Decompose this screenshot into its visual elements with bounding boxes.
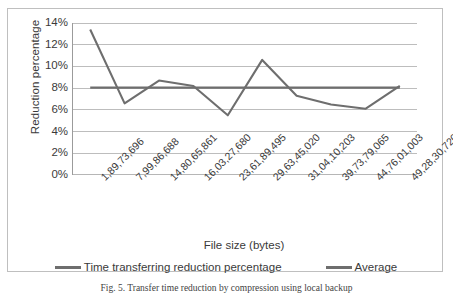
y-axis-tick-label: 4%	[32, 126, 68, 138]
x-axis-tick-label: 7,99,86,688	[134, 175, 142, 183]
chart-figure: Reduction percentage 0%2%4%6%8%10%12%14%…	[7, 8, 443, 272]
legend-label: Average	[355, 261, 398, 273]
series-line-reduction-percentage	[90, 30, 400, 116]
legend-line-swatch-icon	[55, 266, 81, 269]
legend-entry[interactable]: Average	[326, 261, 398, 273]
x-axis-tick-label: 16,03,27,680	[202, 175, 210, 183]
y-axis-tick-label: 6%	[32, 104, 68, 116]
x-axis-tick-labels: 1,89,73,6967,99,86,68814,80,65,86116,03,…	[72, 175, 416, 237]
y-axis-tick-label: 12%	[32, 39, 68, 51]
x-axis-title: File size (bytes)	[72, 239, 416, 251]
legend-entry[interactable]: Time transferring reduction percentage	[55, 261, 282, 273]
chart-legend: Time transferring reduction percentageAv…	[22, 258, 430, 276]
x-axis-tick-label: 23,61,89,495	[237, 175, 245, 183]
x-axis-tick-label: 39,73,79,065	[340, 175, 348, 183]
x-axis-tick-label: 14,80,65,861	[168, 175, 176, 183]
y-axis-tick-label: 10%	[32, 61, 68, 73]
y-axis-tick-label: 0%	[32, 169, 68, 181]
x-axis-tick-label: 1,89,73,696	[99, 175, 107, 183]
legend-line-swatch-icon	[326, 266, 352, 269]
y-axis-tick-label: 8%	[32, 82, 68, 94]
figure-caption: Fig. 5. Transfer time reduction by compr…	[0, 283, 453, 293]
y-axis-tick-labels: 0%2%4%6%8%10%12%14%	[32, 23, 68, 175]
y-axis-tick-label: 2%	[32, 148, 68, 160]
x-axis-tick-label: 31,04,10,203	[306, 175, 314, 183]
x-axis-tick-label: 44,76,01,003	[374, 175, 382, 183]
legend-label: Time transferring reduction percentage	[84, 261, 282, 273]
x-axis-tick-label: 49,28,30,720	[409, 175, 417, 183]
x-axis-tick-label: 29,63,45,020	[271, 175, 279, 183]
y-axis-tick-label: 14%	[32, 17, 68, 29]
